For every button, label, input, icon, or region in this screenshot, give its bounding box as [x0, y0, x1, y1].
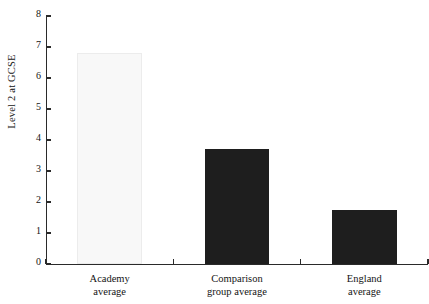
x-axis-label-line: Comparison: [173, 272, 300, 285]
y-tick-label: 6: [29, 70, 41, 81]
y-tick-label: 0: [29, 256, 41, 267]
x-axis-label-line: group average: [173, 285, 300, 298]
x-axis-label-line: England: [301, 272, 428, 285]
y-tick-label: 7: [29, 39, 41, 50]
x-tick-mark: [427, 259, 428, 264]
x-tick-mark: [45, 259, 46, 264]
x-tick-mark: [300, 259, 301, 264]
plot-area: 012345678: [46, 16, 428, 264]
x-axis-label-1: Comparisongroup average: [173, 272, 300, 298]
y-tick-mark: [46, 201, 51, 202]
y-tick-mark: [46, 46, 51, 47]
x-axis-line: [46, 264, 428, 265]
x-axis-label-line: average: [301, 285, 428, 298]
y-tick-mark: [46, 232, 51, 233]
y-tick-mark: [46, 108, 51, 109]
y-tick-mark: [46, 170, 51, 171]
y-tick-mark: [46, 15, 51, 16]
bar-1: [205, 149, 270, 264]
y-tick-mark: [46, 139, 51, 140]
x-axis-label-line: average: [46, 285, 173, 298]
bar-0: [77, 53, 142, 264]
y-tick-label: 3: [29, 163, 41, 174]
bar-2: [332, 210, 397, 264]
x-axis-label-2: Englandaverage: [301, 272, 428, 298]
y-tick-mark: [46, 77, 51, 78]
y-tick-label: 1: [29, 225, 41, 236]
y-axis-title: Level 2 at GCSE: [6, 34, 17, 150]
x-axis-label-line: Academy: [46, 272, 173, 285]
y-tick-label: 4: [29, 132, 41, 143]
y-tick-label: 2: [29, 194, 41, 205]
y-tick-label: 8: [29, 8, 41, 19]
x-tick-mark: [173, 259, 174, 264]
y-tick-label: 5: [29, 101, 41, 112]
y-tick-mark: [46, 263, 51, 264]
x-axis-label-0: Academyaverage: [46, 272, 173, 298]
